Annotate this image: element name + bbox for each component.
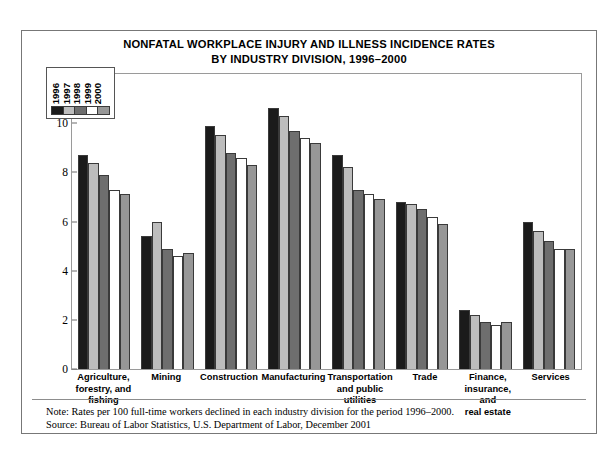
y-tick-label: 6 xyxy=(62,216,68,228)
bar xyxy=(109,190,120,369)
y-tick-label: 4 xyxy=(62,265,68,277)
legend-swatches xyxy=(51,106,110,115)
bar xyxy=(215,135,226,369)
x-axis-label-line: Manufacturing xyxy=(261,372,325,384)
bar xyxy=(310,143,321,369)
bar xyxy=(205,126,216,369)
x-axis-label-line: Trade xyxy=(395,372,456,384)
bar xyxy=(427,217,438,369)
x-axis-label-line: Mining xyxy=(136,372,197,384)
bar xyxy=(417,209,428,369)
bar xyxy=(332,155,343,369)
legend-swatch xyxy=(52,107,64,114)
bar xyxy=(162,249,173,369)
x-axis-label-line: insurance, and xyxy=(457,384,518,407)
y-tick-label: 2 xyxy=(62,314,68,326)
legend-year-labels: 19961997199819992000 xyxy=(51,71,110,104)
bar xyxy=(491,325,502,369)
bar xyxy=(268,108,279,369)
note-text: Note: Rates per 100 full-time workers de… xyxy=(46,405,586,418)
bar xyxy=(78,155,89,369)
bar xyxy=(226,153,237,369)
x-axis-label-line: Transportation xyxy=(327,372,392,384)
bar xyxy=(343,167,354,369)
legend-year-label: 2000 xyxy=(93,83,104,104)
bar xyxy=(459,310,470,369)
legend-swatch xyxy=(98,107,109,114)
source-text: Source: Bureau of Labor Statistics, U.S.… xyxy=(46,418,586,431)
bar-group xyxy=(263,74,327,369)
bar xyxy=(247,165,258,369)
bar xyxy=(88,163,99,370)
x-axis-label-line: Finance, xyxy=(457,372,518,384)
bar xyxy=(480,322,491,369)
legend-swatch xyxy=(64,107,76,114)
bar-group xyxy=(136,74,200,369)
bar xyxy=(279,116,290,369)
bar xyxy=(396,202,407,369)
footnotes: Note: Rates per 100 full-time workers de… xyxy=(46,405,586,431)
bar xyxy=(544,241,555,369)
y-tick-label: 0 xyxy=(62,363,68,375)
legend-year-label: 1996 xyxy=(51,83,62,104)
bar xyxy=(236,158,247,369)
bar xyxy=(533,231,544,369)
bar xyxy=(300,138,311,369)
x-axis-label-line: Agriculture, xyxy=(73,372,134,384)
bar xyxy=(406,204,417,369)
bar xyxy=(438,224,449,369)
bar-group xyxy=(327,74,391,369)
bar xyxy=(99,175,110,369)
bar-groups xyxy=(72,74,581,369)
legend: 19961997199819992000 xyxy=(46,67,115,119)
x-axis-label-line: Construction xyxy=(199,372,260,384)
bar xyxy=(523,222,534,370)
x-axis-label-line: and public utilities xyxy=(327,384,392,407)
figure-container: NONFATAL WORKPLACE INJURY AND ILLNESS IN… xyxy=(21,30,597,434)
bar xyxy=(353,190,364,369)
chart-title-line-2: BY INDUSTRY DIVISION, 1996–2000 xyxy=(22,52,596,67)
bar xyxy=(152,222,163,370)
chart-title: NONFATAL WORKPLACE INJURY AND ILLNESS IN… xyxy=(22,37,596,67)
note-divider xyxy=(32,399,586,400)
plot-area: 024681012 xyxy=(71,73,582,370)
bar-group xyxy=(390,74,454,369)
bar xyxy=(141,236,152,369)
bar-group xyxy=(454,74,518,369)
bar xyxy=(470,315,481,369)
y-tick-label: 8 xyxy=(62,166,68,178)
bar xyxy=(565,249,576,369)
legend-swatch xyxy=(87,107,99,114)
bar xyxy=(554,249,565,369)
bar xyxy=(183,253,194,369)
bar xyxy=(173,256,184,369)
chart-title-line-1: NONFATAL WORKPLACE INJURY AND ILLNESS IN… xyxy=(22,37,596,52)
bar xyxy=(364,194,375,369)
x-axis-label-line: forestry, and xyxy=(73,384,134,396)
legend-year-label: 1998 xyxy=(72,83,83,104)
bar xyxy=(501,322,512,369)
bar xyxy=(289,131,300,369)
bar xyxy=(120,194,131,369)
bar xyxy=(374,199,385,369)
x-axis-label-line: Services xyxy=(520,372,581,384)
legend-swatch xyxy=(75,107,87,114)
bar-group xyxy=(517,74,581,369)
bar-group xyxy=(199,74,263,369)
